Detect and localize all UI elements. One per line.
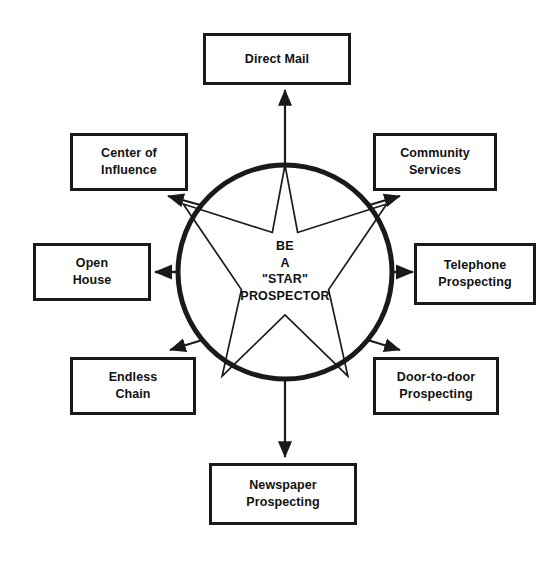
- node-center-of-influence-label: Center of Influence: [101, 145, 157, 179]
- node-direct-mail[interactable]: Direct Mail: [203, 33, 351, 85]
- node-open-house-label: Open House: [73, 255, 112, 289]
- node-door-to-door-prospecting[interactable]: Door-to-door Prospecting: [373, 357, 499, 415]
- node-newspaper-prospecting-label: Newspaper Prospecting: [246, 477, 319, 511]
- node-telephone-prospecting[interactable]: Telephone Prospecting: [414, 243, 536, 305]
- node-community-services[interactable]: Community Services: [373, 133, 497, 191]
- node-open-house[interactable]: Open House: [33, 243, 151, 301]
- diagram-canvas: BE A "STAR" PROSPECTOR Direct Mail Cente…: [0, 0, 553, 563]
- node-telephone-prospecting-label: Telephone Prospecting: [438, 257, 511, 291]
- node-community-services-label: Community Services: [400, 145, 470, 179]
- node-center-of-influence[interactable]: Center of Influence: [70, 133, 188, 191]
- node-endless-chain[interactable]: Endless Chain: [70, 357, 196, 415]
- node-endless-chain-label: Endless Chain: [109, 369, 158, 403]
- node-door-to-door-prospecting-label: Door-to-door Prospecting: [397, 369, 475, 403]
- node-direct-mail-label: Direct Mail: [245, 51, 309, 68]
- node-newspaper-prospecting[interactable]: Newspaper Prospecting: [209, 463, 357, 525]
